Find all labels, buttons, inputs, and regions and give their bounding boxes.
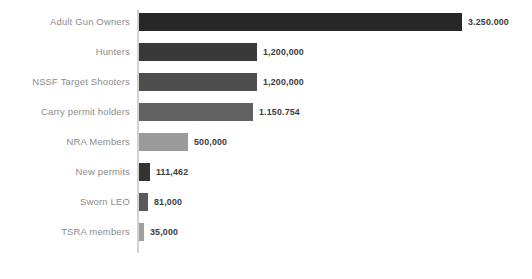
- category-label-sworn-leo: Sworn LEO: [0, 193, 130, 211]
- value-label-hunters: 1,200,000: [263, 43, 304, 61]
- bar-row: NSSF Target Shooters 1,200,000: [0, 73, 532, 103]
- category-label-hunters: Hunters: [0, 43, 130, 61]
- value-label-adult-gun-owners: 3.250.000: [468, 13, 509, 31]
- bar-tsra-members: [139, 223, 144, 241]
- bar-row: Carry permit holders 1.150.754: [0, 103, 532, 133]
- bar-adult-gun-owners: [139, 13, 462, 31]
- bar-row: TSRA members 35,000: [0, 223, 532, 253]
- bar-wrapper: [139, 103, 253, 121]
- bar-nssf-target-shooters: [139, 73, 257, 91]
- bar-row: Hunters 1,200,000: [0, 43, 532, 73]
- category-label-carry-permit-holders: Carry permit holders: [0, 103, 130, 121]
- category-label-new-permits: New permits: [0, 163, 130, 181]
- value-label-sworn-leo: 81,000: [154, 193, 182, 211]
- bar-hunters: [139, 43, 257, 61]
- horizontal-bar-chart: Adult Gun Owners 3.250.000 Hunters 1,200…: [0, 0, 532, 279]
- value-label-new-permits: 111,462: [156, 163, 188, 181]
- bar-row: Adult Gun Owners 3.250.000: [0, 13, 532, 43]
- bar-wrapper: [139, 13, 462, 31]
- value-label-tsra-members: 35,000: [150, 223, 178, 241]
- value-label-carry-permit-holders: 1.150.754: [259, 103, 300, 121]
- bar-row: New permits 111,462: [0, 163, 532, 193]
- category-label-nra-members: NRA Members: [0, 133, 130, 151]
- bar-wrapper: [139, 193, 148, 211]
- bar-nra-members: [139, 133, 188, 151]
- bar-row: Sworn LEO 81,000: [0, 193, 532, 223]
- bar-sworn-leo: [139, 193, 148, 211]
- category-label-nssf-target-shooters: NSSF Target Shooters: [0, 73, 130, 91]
- bar-row: NRA Members 500,000: [0, 133, 532, 163]
- bar-new-permits: [139, 163, 150, 181]
- bar-wrapper: [139, 73, 257, 91]
- plot-area: Adult Gun Owners 3.250.000 Hunters 1,200…: [0, 13, 532, 253]
- bar-wrapper: [139, 223, 144, 241]
- value-label-nssf-target-shooters: 1,200,000: [263, 73, 304, 91]
- bar-carry-permit-holders: [139, 103, 253, 121]
- bar-wrapper: [139, 163, 150, 181]
- bar-wrapper: [139, 133, 188, 151]
- category-label-tsra-members: TSRA members: [0, 223, 130, 241]
- value-label-nra-members: 500,000: [194, 133, 227, 151]
- category-label-adult-gun-owners: Adult Gun Owners: [0, 13, 130, 31]
- bar-wrapper: [139, 43, 257, 61]
